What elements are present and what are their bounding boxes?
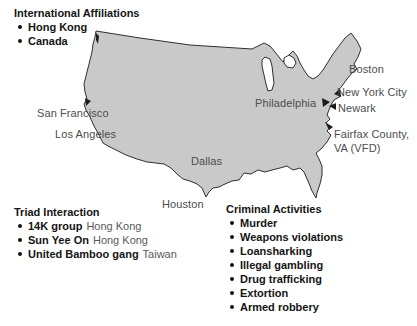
bullet-icon [230, 263, 234, 267]
list-item: United Bamboo gangTaiwan [14, 247, 177, 261]
fairfax-line1: Fairfax County, [334, 127, 409, 141]
bullet-icon [230, 249, 234, 253]
bullet-icon [230, 291, 234, 295]
triad-group: Sun Yee On [28, 233, 89, 247]
list-item: Armed robbery [226, 300, 343, 314]
map-label-newark: Newark [338, 102, 376, 115]
list-item: Extortion [226, 286, 343, 300]
map-label-los-angeles: Los Angeles [55, 128, 116, 141]
list-item: Murder [226, 216, 343, 230]
list-item: Illegal gambling [226, 258, 343, 272]
map-label-philadelphia: Philadelphia [255, 97, 316, 110]
list-item: Drug trafficking [226, 272, 343, 286]
bullet-icon [230, 235, 234, 239]
international-affiliations-block: International Affiliations Hong Kong Can… [14, 6, 140, 48]
bullet-icon [230, 305, 234, 309]
bullet-icon [18, 252, 22, 256]
list-item: Loansharking [226, 244, 343, 258]
list-item-label: Armed robbery [240, 300, 319, 314]
international-affiliations-title: International Affiliations [14, 6, 140, 20]
bullet-icon [18, 238, 22, 242]
list-item: 14K groupHong Kong [14, 219, 177, 233]
triad-origin: Taiwan [143, 247, 177, 261]
map-label-boston: Boston [349, 63, 384, 76]
list-item: Weapons violations [226, 230, 343, 244]
map-label-fairfax-county: Fairfax County, VA (VFD) [334, 127, 409, 155]
list-item-label: Canada [28, 34, 68, 48]
us-outline [84, 31, 361, 198]
list-item: Hong Kong [14, 20, 140, 34]
bullet-icon [230, 277, 234, 281]
list-item-label: Drug trafficking [240, 272, 322, 286]
criminal-activities-title: Criminal Activities [226, 202, 343, 216]
map-label-dallas: Dallas [191, 155, 222, 168]
triad-origin: Hong Kong [86, 219, 141, 233]
list-item-label: Weapons violations [240, 230, 343, 244]
triad-group: United Bamboo gang [28, 247, 139, 261]
list-item-label: Hong Kong [28, 20, 87, 34]
triad-interaction-title: Triad Interaction [14, 205, 177, 219]
bullet-icon [18, 224, 22, 228]
triad-origin: Hong Kong [93, 233, 148, 247]
bullet-icon [18, 25, 22, 29]
list-item-label: Loansharking [240, 244, 312, 258]
triad-group: 14K group [28, 219, 82, 233]
list-item-label: Murder [240, 216, 277, 230]
map-label-san-francisco: San Francisco [37, 107, 109, 120]
bullet-icon [18, 39, 22, 43]
triad-activity-map-figure: San Francisco Los Angeles Dallas Houston… [0, 0, 417, 326]
criminal-activities-block: Criminal Activities Murder Weapons viola… [226, 202, 343, 314]
list-item-label: Illegal gambling [240, 258, 323, 272]
bullet-icon [230, 221, 234, 225]
list-item: Canada [14, 34, 140, 48]
list-item-label: Extortion [240, 286, 288, 300]
list-item: Sun Yee OnHong Kong [14, 233, 177, 247]
map-label-new-york-city: New York City [337, 86, 407, 99]
triad-interaction-block: Triad Interaction 14K groupHong Kong Sun… [14, 205, 177, 261]
fairfax-line2: VA (VFD) [334, 141, 409, 155]
